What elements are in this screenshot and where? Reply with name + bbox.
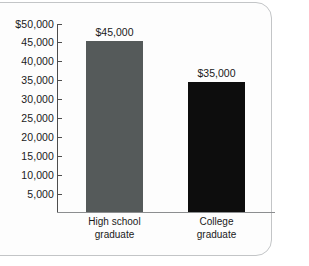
y-axis-tick-label: 15,000 [0, 150, 54, 162]
y-axis-tick [58, 156, 62, 157]
category-label-college-graduate: College graduate [168, 216, 265, 241]
bar-chart: $50,000 45,000 40,000 35,000 30,000 25,0… [0, 0, 309, 266]
y-axis-tick-label: 40,000 [0, 55, 54, 67]
y-axis-tick-label: 35,000 [0, 74, 54, 86]
bar-college-graduate[interactable] [188, 82, 245, 212]
category-label-high-school-graduate: High school graduate [66, 216, 163, 241]
y-axis-tick [58, 61, 62, 62]
chart-page: $50,000 45,000 40,000 35,000 30,000 25,0… [0, 0, 309, 266]
category-label-line2: graduate [168, 229, 265, 242]
y-axis-tick-label: 30,000 [0, 93, 54, 105]
category-label-line1: College [168, 216, 265, 229]
category-label-line2: graduate [66, 229, 163, 242]
y-axis-tick-label: 10,000 [0, 169, 54, 181]
y-axis-tick [58, 42, 62, 43]
y-axis-tick-label: 45,000 [0, 36, 54, 48]
y-axis-tick [58, 194, 62, 195]
bar-value-label-college-graduate: $35,000 [188, 67, 245, 79]
y-axis-tick [58, 80, 62, 81]
y-axis-tick [58, 118, 62, 119]
y-axis-tick-label: 20,000 [0, 131, 54, 143]
y-axis-tick-label: 5,000 [0, 188, 54, 200]
bar-high-school-graduate[interactable] [86, 41, 143, 212]
bar-value-label-high-school-graduate: $45,000 [86, 26, 143, 38]
y-axis-tick-label: 25,000 [0, 112, 54, 124]
category-label-line1: High school [66, 216, 163, 229]
y-axis-tick [58, 175, 62, 176]
y-axis-tick [58, 24, 62, 25]
y-axis-tick [58, 137, 62, 138]
x-axis-baseline [57, 212, 275, 213]
y-axis-tick-label: $50,000 [0, 18, 54, 30]
y-axis-tick [58, 99, 62, 100]
